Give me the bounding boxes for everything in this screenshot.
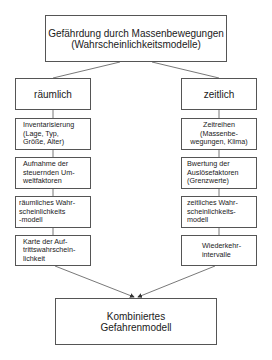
result-box: Kombiniertes Gefahrenmodell xyxy=(55,298,217,345)
step-inventarisierung: Inventarisierung (Lage, Typ, Größe, Alte… xyxy=(15,118,91,150)
step-zeitreihen: Zeitreihen (Massenbe- wegungen, Klima) xyxy=(181,118,257,150)
result-text: Kombiniertes Gefahrenmodell xyxy=(100,311,171,333)
branch-header-zeitlich: zeitlich xyxy=(181,78,257,110)
step-bewertung-ausloesefaktoren: Bwertung der Auslösefaktoren (Grenzwerte… xyxy=(181,157,257,189)
step-karte-auftrittswahrscheinlichkeit: Karte der Auf- trittswahrschein- lichkei… xyxy=(15,235,91,266)
title-text: Gefährdung durch Massenbewegungen (Wahrs… xyxy=(48,28,224,50)
step-aufnahme-umweltfaktoren: Aufnahme der steuernden Um- weltfaktoren xyxy=(15,157,91,189)
step-raeumliches-modell: räumliches Wahr- scheinlichkeits -modell xyxy=(15,196,91,228)
step-wiederkehrintervalle: Wiederkehr- intervalle xyxy=(181,235,257,266)
title-box: Gefährdung durch Massenbewegungen (Wahrs… xyxy=(45,15,227,62)
step-zeitliches-modell: zeitliches Wahr- scheinlichkeits- modell xyxy=(181,196,257,228)
arrow-right-to-result xyxy=(138,266,215,297)
branch-header-raeumlich: räumlich xyxy=(15,78,91,110)
arrow-left-to-result xyxy=(55,266,134,297)
